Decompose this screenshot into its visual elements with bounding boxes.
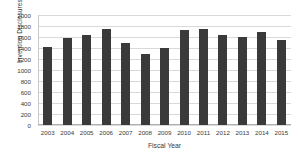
- x-axis-tick-label: 2012: [213, 128, 232, 138]
- bar-slot: [194, 15, 213, 125]
- y-axis-tick-label: 1800: [17, 23, 31, 30]
- bar-slot: [174, 15, 193, 125]
- y-axis-tick-label: 400: [21, 100, 31, 107]
- bar: [199, 29, 208, 125]
- bar: [218, 35, 227, 125]
- x-axis-tick-label: 2009: [155, 128, 174, 138]
- bar: [43, 47, 52, 125]
- bar: [63, 38, 72, 125]
- y-axis-tick-label: 1000: [17, 67, 31, 74]
- bar: [121, 43, 130, 125]
- bar: [82, 35, 91, 125]
- bar-slot: [252, 15, 271, 125]
- bar-slot: [116, 15, 135, 125]
- y-axis-tick-label: 0: [28, 122, 31, 129]
- bar-slot: [272, 15, 291, 125]
- y-axis-tick-label: 1400: [17, 45, 31, 52]
- x-axis-tick-labels: 2003200420052006200720082009201020112012…: [38, 128, 291, 138]
- x-axis-tick-label: 2005: [77, 128, 96, 138]
- bar-slot: [77, 15, 96, 125]
- bar: [257, 32, 266, 125]
- y-axis-tick-labels: 0200400600800100012001400160018002000: [0, 15, 34, 125]
- bar: [141, 54, 150, 125]
- x-axis-tick-label: 2006: [96, 128, 115, 138]
- bar-slot: [57, 15, 76, 125]
- bar-slot: [135, 15, 154, 125]
- bar-series: [38, 15, 291, 125]
- y-axis-tick-label: 1200: [17, 56, 31, 63]
- x-axis-tick-label: 2008: [135, 128, 154, 138]
- x-axis-tick-label: 2007: [116, 128, 135, 138]
- bar: [180, 30, 189, 125]
- x-axis-tick-label: 2015: [272, 128, 291, 138]
- bar: [277, 40, 286, 125]
- bar: [102, 29, 111, 125]
- x-axis-tick-label: 2010: [174, 128, 193, 138]
- y-axis-tick-label: 600: [21, 89, 31, 96]
- bar-slot: [155, 15, 174, 125]
- bar: [238, 37, 247, 125]
- x-axis-tick-label: 2004: [57, 128, 76, 138]
- y-axis-tick-label: 200: [21, 111, 31, 118]
- gridline: [38, 125, 291, 126]
- y-axis-tick-label: 2000: [17, 12, 31, 19]
- x-axis-tick-label: 2013: [233, 128, 252, 138]
- bar-slot: [96, 15, 115, 125]
- bar-slot: [213, 15, 232, 125]
- x-axis-tick-label: 2014: [252, 128, 271, 138]
- bar-slot: [233, 15, 252, 125]
- bar: [160, 48, 169, 125]
- y-axis-tick-label: 800: [21, 78, 31, 85]
- bar-chart: Invention Disclosures - NASA 02004006008…: [0, 0, 298, 164]
- plot-area: [38, 15, 291, 125]
- x-axis-title: Fiscal Year: [38, 141, 291, 151]
- bar-slot: [38, 15, 57, 125]
- x-axis-tick-label: 2011: [194, 128, 213, 138]
- y-axis-tick-label: 1600: [17, 34, 31, 41]
- x-axis-tick-label: 2003: [38, 128, 57, 138]
